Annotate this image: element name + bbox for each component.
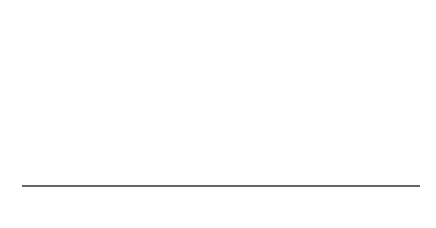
normal-curve-chart — [0, 0, 436, 228]
